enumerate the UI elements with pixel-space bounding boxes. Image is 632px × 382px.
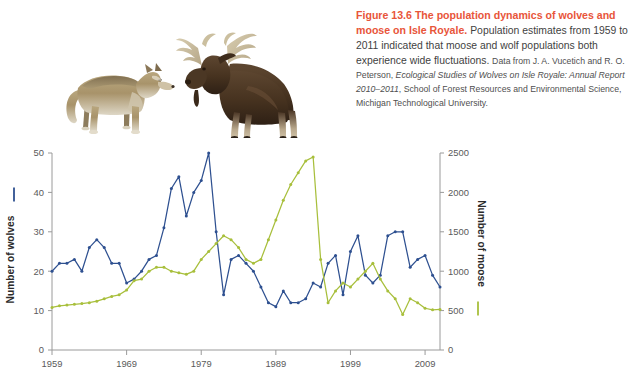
x-axis-tick-label: 1989 (265, 358, 286, 369)
y-axis-right-tick-label: 500 (448, 305, 464, 316)
y-axis-right-tick-label: 1000 (448, 266, 469, 277)
moose-illustration (176, 32, 297, 138)
x-axis-tick-label: 1979 (191, 358, 212, 369)
y-axis-right-tick-label: 0 (448, 344, 453, 355)
animal-illustration-group (52, 6, 342, 138)
y-axis-left-tick-label: 0 (39, 344, 44, 355)
y-axis-right-title: Number of moose (476, 200, 487, 287)
figure-caption: Figure 13.6 The population dynamics of w… (356, 8, 628, 109)
x-axis-tick-label: 2009 (415, 358, 436, 369)
y-axis-right-tick-label: 2500 (448, 147, 469, 158)
population-dynamics-chart: 0102030405005001000150020002500195919691… (0, 140, 632, 382)
y-axis-left-tick-label: 10 (34, 305, 44, 316)
y-axis-left-tick-label: 50 (34, 147, 44, 158)
x-axis-tick-label: 1999 (340, 358, 361, 369)
wolf-illustration (66, 63, 174, 134)
y-axis-left-title: Number of wolves (5, 215, 16, 303)
chart-svg: 0102030405005001000150020002500195919691… (0, 140, 632, 382)
animals-svg (52, 6, 342, 138)
y-axis-left-tick-label: 20 (34, 266, 44, 277)
series-wolves (51, 152, 442, 309)
x-axis-tick-label: 1959 (42, 358, 63, 369)
y-axis-left-tick-label: 30 (34, 226, 44, 237)
x-axis-tick-label: 1969 (116, 358, 137, 369)
y-axis-right-tick-label: 1500 (448, 226, 469, 237)
y-axis-right-tick-label: 2000 (448, 187, 469, 198)
series-moose (51, 155, 442, 316)
y-axis-left-tick-label: 40 (34, 187, 44, 198)
